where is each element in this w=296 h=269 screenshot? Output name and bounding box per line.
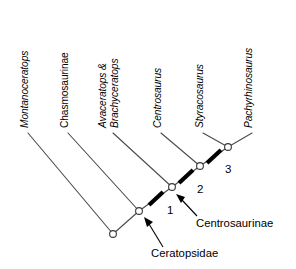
taxon-label-centrosaurus: Centrosaurus: [152, 68, 163, 128]
taxon-label-pachyrhinosaurus: Pachyrhinosaurus: [243, 48, 254, 128]
tick-mark-3: [207, 150, 221, 163]
node-ceratopsidae: [136, 208, 143, 215]
tick-number-labels: 1 2 3: [167, 163, 231, 216]
node-centrosaurinae: [169, 184, 176, 191]
cladogram-figure: 1 2 3 Montanoceratops Chasmosaurinae Ava…: [0, 0, 296, 269]
taxon-label-styracosaurus: Styracosaurus: [194, 64, 205, 128]
centrosaurinae-arrow-line: [182, 200, 197, 216]
clade-annotations: Centrosaurinae Ceratopsidae: [144, 194, 273, 259]
tick-number-1: 1: [167, 204, 173, 216]
phylogenetic-tree-svg: 1 2 3 Montanoceratops Chasmosaurinae Ava…: [0, 0, 296, 269]
branch-root-to-montanoceratops: [28, 133, 113, 234]
centrosaurinae-annotation: Centrosaurinae: [176, 194, 273, 229]
branch-node2-to-centrosaurus: [161, 133, 200, 166]
tick-mark-1: [149, 192, 163, 205]
node-styracosaurus-pachyrhinosaurus: [225, 144, 232, 151]
branch-ceratopsidae-to-chasmosaurinae: [68, 133, 139, 211]
taxon-label-brachyceratops: Brachyceratops: [109, 59, 120, 128]
branch-node3-to-pachyrhinosaurus: [228, 133, 252, 147]
ceratopsidae-arrow-line: [149, 224, 163, 247]
branch-centrosaurinae-to-avaceratops: [113, 133, 172, 187]
branch-root-to-ceratopsidae: [113, 211, 139, 234]
ceratopsidae-arrow-head: [144, 217, 153, 227]
centrosaurinae-clade-label: Centrosaurinae: [196, 217, 273, 229]
taxon-labels: Montanoceratops Chasmosaurinae Avacerato…: [19, 48, 254, 129]
ceratopsidae-clade-label: Ceratopsidae: [151, 247, 218, 259]
tick-number-2: 2: [197, 183, 203, 195]
node-styracosaurus-pachyrhinosaurus-parent: [197, 163, 204, 170]
tick-number-3: 3: [225, 163, 231, 175]
tick-mark-2: [179, 170, 193, 183]
tree-tick-marks: [149, 150, 221, 205]
node-root: [110, 231, 117, 238]
taxon-label-avaceratops: Avaceratops &: [97, 63, 108, 129]
taxon-label-montanoceratops: Montanoceratops: [19, 51, 30, 128]
branch-node3-to-styracosaurus: [203, 133, 228, 147]
taxon-label-chasmosaurinae: Chasmosaurinae: [59, 52, 70, 128]
